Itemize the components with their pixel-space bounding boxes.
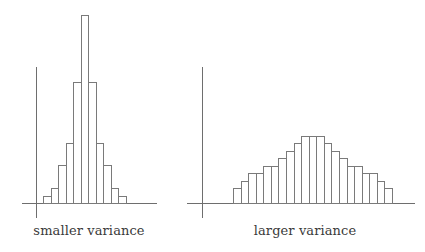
histogram-bar bbox=[348, 167, 355, 204]
histogram-bar bbox=[363, 174, 370, 204]
histogram-canvas bbox=[0, 0, 425, 252]
histogram-bar bbox=[112, 189, 119, 204]
left-histogram-panel bbox=[22, 16, 157, 219]
histogram-bar bbox=[104, 166, 112, 204]
histogram-comparison-figure: smaller variance larger variance bbox=[0, 0, 425, 252]
histogram-bar bbox=[310, 137, 317, 204]
histogram-bar bbox=[378, 182, 385, 204]
histogram-bar bbox=[340, 159, 348, 204]
histogram-bar bbox=[332, 152, 340, 204]
histogram-bar bbox=[89, 83, 97, 204]
histogram-bar bbox=[370, 174, 378, 204]
histogram-bar bbox=[234, 189, 242, 204]
right-caption: larger variance bbox=[254, 223, 357, 238]
histogram-bar bbox=[97, 144, 104, 204]
histogram-bar bbox=[257, 174, 264, 204]
left-caption: smaller variance bbox=[33, 223, 144, 238]
histogram-bar bbox=[59, 166, 67, 204]
histogram-bar bbox=[264, 167, 272, 204]
histogram-bar bbox=[44, 197, 52, 204]
histogram-bar bbox=[249, 174, 257, 204]
histogram-bar bbox=[74, 83, 82, 204]
histogram-bar bbox=[317, 137, 325, 204]
histogram-bar bbox=[325, 144, 332, 204]
histogram-bar bbox=[385, 189, 393, 204]
histogram-bar bbox=[302, 137, 310, 204]
histogram-bar bbox=[279, 159, 287, 204]
histogram-bar bbox=[82, 16, 89, 204]
histogram-bar bbox=[287, 152, 295, 204]
left-histogram-bars bbox=[44, 16, 127, 204]
histogram-bar bbox=[52, 189, 59, 204]
histogram-bar bbox=[295, 144, 302, 204]
histogram-bar bbox=[272, 167, 279, 204]
histogram-bar bbox=[355, 167, 363, 204]
right-histogram-panel bbox=[187, 67, 415, 218]
histogram-bar bbox=[242, 182, 249, 204]
histogram-bar bbox=[119, 197, 127, 204]
right-histogram-bars bbox=[234, 137, 393, 204]
histogram-bar bbox=[67, 144, 74, 204]
